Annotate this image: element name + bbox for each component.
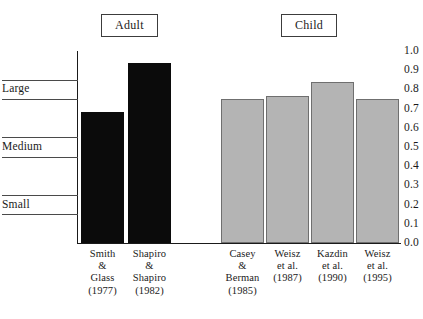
magnitude-band-rule [2,214,78,215]
x-tick-label: Weiszet al.(1995) [345,248,411,285]
y-tick-value: 0.7 [404,103,423,115]
x-tick-label-line: & [117,260,183,272]
magnitude-band-rule [2,99,78,100]
bar [81,112,124,243]
group-title-adult: Adult [101,14,158,37]
y-tick-value: 0.0 [404,237,423,249]
magnitude-band-label-small: Small [2,199,30,211]
magnitude-band-label-medium: Medium [2,141,42,153]
magnitude-band-rule [2,80,78,81]
magnitude-band-label-large: Large [2,83,30,95]
y-tick-value: 0.1 [404,218,423,230]
magnitude-band-rule [2,137,78,138]
x-tick-label-line: (1985) [210,285,276,297]
bar [266,96,309,243]
x-tick-label-line: Shapiro [117,248,183,260]
y-tick-value: 0.3 [404,179,423,191]
y-tick-value: 0.6 [404,122,423,134]
y-tick-value: 0.9 [404,64,423,76]
y-tick-value: 0.8 [404,83,423,95]
y-tick-value: 0.2 [404,199,423,211]
bar [128,63,171,243]
x-tick-label-line: (1995) [345,272,411,284]
x-tick-label-line: Shapiro [117,272,183,284]
plot-area [78,51,400,243]
bar [356,99,399,243]
group-title-child: Child [281,14,337,37]
magnitude-band-rule [2,195,78,196]
x-tick-label-line: et al. [345,260,411,272]
bar [221,99,264,243]
x-tick-label: Shapiro&Shapiro(1982) [117,248,183,297]
x-tick-label-line: (1982) [117,285,183,297]
y-tick-value: 0.4 [404,160,423,172]
y-tick-value: 1.0 [404,45,423,57]
bar [311,82,354,243]
magnitude-band-rule [2,157,78,158]
x-tick-label-line: Weisz [345,248,411,260]
effect-size-bar-chart: Adult Child 1.00.90.80.70.60.50.40.30.20… [0,0,423,319]
y-tick-value: 0.5 [404,141,423,153]
